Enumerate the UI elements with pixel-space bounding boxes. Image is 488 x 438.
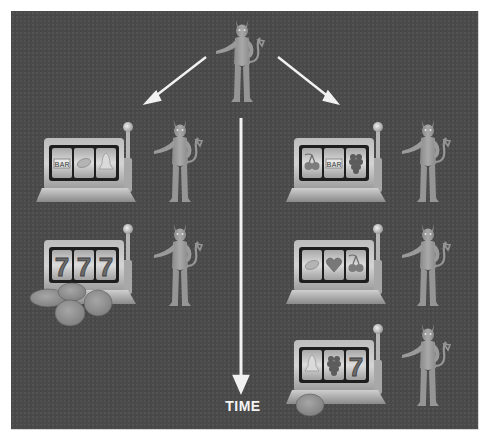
- time-label: TIME: [220, 398, 266, 414]
- right-machine-3: 7: [286, 324, 386, 404]
- right-machine-2: [286, 224, 386, 304]
- left-devil-1: [154, 120, 202, 202]
- right-devil-1: [402, 120, 450, 202]
- left-machine-1: BAR: [36, 122, 136, 202]
- svg-text:7: 7: [99, 252, 113, 282]
- right-machine-1: BAR: [286, 122, 386, 202]
- root-devil-figure: [216, 20, 264, 102]
- svg-text:BAR: BAR: [54, 161, 69, 168]
- single-coin: [296, 394, 324, 416]
- left-arrowhead-icon: [146, 92, 160, 103]
- svg-text:7: 7: [77, 252, 91, 282]
- left-branch-arrow: [153, 57, 206, 98]
- svg-text:7: 7: [55, 252, 69, 282]
- right-arrowhead-icon: [324, 92, 337, 103]
- svg-text:BAR: BAR: [326, 161, 341, 168]
- svg-text:7: 7: [349, 352, 363, 382]
- right-branch-arrow: [278, 57, 330, 98]
- time-arrowhead-icon: [234, 376, 248, 392]
- right-devil-2: [402, 224, 450, 306]
- right-devil-3: [402, 324, 450, 406]
- left-devil-2: [154, 224, 202, 306]
- diagram-artwork: BAR 7 7 7 BAR: [0, 0, 488, 438]
